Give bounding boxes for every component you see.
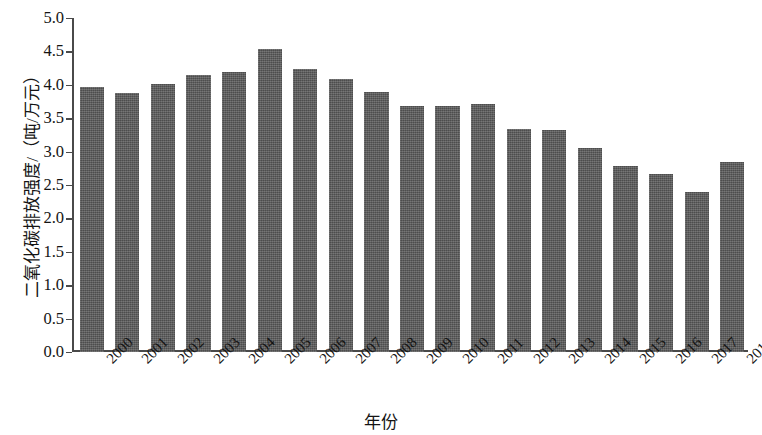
bar — [364, 92, 388, 352]
plot-area — [72, 18, 748, 352]
bar — [578, 148, 602, 352]
y-tick-label: 2.0 — [24, 210, 64, 227]
bar-series — [72, 18, 748, 352]
y-tick-label: 0.0 — [24, 344, 64, 361]
bar — [258, 49, 282, 352]
y-tick-label: 4.0 — [24, 77, 64, 94]
x-tick-label: 2018 — [744, 356, 755, 367]
x-tick-label: 2004 — [246, 356, 257, 367]
x-tick-label: 2008 — [388, 356, 399, 367]
x-tick-label: 2014 — [602, 356, 613, 367]
bar — [293, 69, 317, 352]
bar — [222, 72, 246, 352]
bar — [115, 93, 139, 352]
x-tick-label: 2002 — [175, 356, 186, 367]
x-tick-label: 2009 — [424, 356, 435, 367]
bar — [507, 129, 531, 352]
x-tick-label: 2006 — [317, 356, 328, 367]
bar — [435, 106, 459, 352]
x-tick-label: 2001 — [139, 356, 150, 367]
x-tick-label: 2015 — [637, 356, 648, 367]
x-axis-title: 年份 — [0, 408, 762, 433]
x-tick-label: 2017 — [709, 356, 720, 367]
y-tick-label: 5.0 — [24, 10, 64, 27]
y-tick-label: 3.5 — [24, 110, 64, 127]
x-tick-label: 2005 — [282, 356, 293, 367]
x-tick-label: 2000 — [104, 356, 115, 367]
bar — [649, 174, 673, 352]
y-axis-tick-labels: 0.00.51.01.52.02.53.03.54.04.55.0 — [16, 0, 64, 435]
bar — [613, 166, 637, 352]
x-tick-label: 2003 — [211, 356, 222, 367]
y-tick-mark — [66, 352, 72, 353]
bar — [685, 192, 709, 352]
y-tick-label: 3.0 — [24, 144, 64, 161]
bar — [400, 106, 424, 352]
x-tick-label: 2013 — [566, 356, 577, 367]
bar — [720, 162, 744, 352]
x-tick-label: 2011 — [495, 356, 506, 367]
bar — [186, 75, 210, 352]
x-tick-label: 2012 — [531, 356, 542, 367]
y-tick-label: 0.5 — [24, 311, 64, 328]
bar — [80, 87, 104, 352]
bar-chart-figure: 二氧化碳排放强度/（吨/万元） 0.00.51.01.52.02.53.03.5… — [0, 0, 762, 435]
x-tick-label: 2010 — [460, 356, 471, 367]
y-tick-label: 4.5 — [24, 43, 64, 60]
bar — [329, 79, 353, 352]
x-axis-tick-labels: 2000200120022003200420052006200720082009… — [72, 356, 748, 402]
y-tick-label: 2.5 — [24, 177, 64, 194]
bar — [151, 84, 175, 352]
x-tick-label: 2007 — [353, 356, 364, 367]
bar — [542, 130, 566, 352]
y-tick-label: 1.5 — [24, 244, 64, 261]
y-tick-label: 1.0 — [24, 277, 64, 294]
bar — [471, 104, 495, 352]
x-tick-label: 2016 — [673, 356, 684, 367]
